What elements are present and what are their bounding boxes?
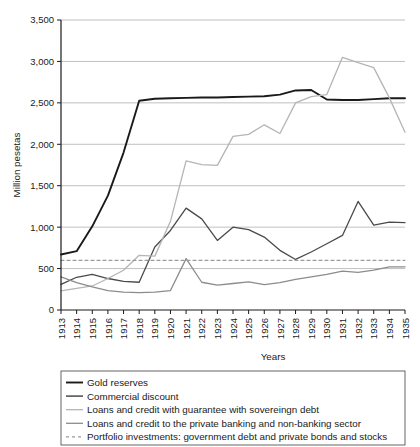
x-tick-label: 1923 (212, 318, 223, 339)
x-tick-label: 1926 (259, 318, 270, 339)
x-tick-label: 1917 (118, 318, 129, 339)
chart-background (0, 0, 420, 447)
x-tick-label: 1933 (368, 318, 379, 339)
y-tick-label: 500 (38, 263, 54, 274)
x-axis-label: Years (261, 351, 286, 362)
x-tick-label: 1931 (337, 318, 348, 339)
x-tick-label: 1932 (353, 318, 364, 339)
x-tick-label: 1915 (87, 318, 98, 339)
y-tick-label: 1,500 (30, 180, 54, 191)
x-tick-label: 1918 (134, 318, 145, 339)
legend-label: Gold reserves (87, 377, 148, 388)
y-tick-label: 2,000 (30, 139, 54, 150)
y-tick-label: 1,000 (30, 222, 54, 233)
x-tick-label: 1924 (228, 318, 239, 339)
line-chart: 05001,0001,5002,0002,5003,0003,500 19131… (0, 0, 420, 447)
y-tick-label: 2,500 (30, 97, 54, 108)
x-tick-label: 1935 (400, 318, 411, 339)
x-tick-label: 1913 (56, 318, 67, 339)
legend-label: Loans and credit with guarantee with sov… (87, 404, 319, 415)
y-tick-label: 3,000 (30, 56, 54, 67)
x-tick-label: 1916 (103, 318, 114, 339)
x-tick-label: 1930 (321, 318, 332, 339)
x-tick-label: 1929 (306, 318, 317, 339)
x-tick-label: 1934 (384, 318, 395, 339)
x-tick-label: 1921 (181, 318, 192, 339)
x-tick-label: 1927 (275, 318, 286, 339)
x-tick-label: 1922 (196, 318, 207, 339)
legend-label: Loans and credit to the private banking … (87, 418, 362, 429)
y-tick-label: 3,500 (30, 14, 54, 25)
chart-figure: 05001,0001,5002,0002,5003,0003,500 19131… (0, 0, 420, 447)
y-tick-label: 0 (49, 304, 54, 315)
x-tick-label: 1919 (149, 318, 160, 339)
legend-label: Portfolio investments: government debt a… (87, 431, 387, 442)
y-axis-label: Million pesetas (11, 133, 22, 198)
x-axis-tick-labels: 1913191419151916191719181919192019211922… (56, 318, 411, 339)
x-tick-label: 1925 (243, 318, 254, 339)
x-tick-label: 1920 (165, 318, 176, 339)
x-tick-label: 1928 (290, 318, 301, 339)
x-tick-label: 1914 (71, 318, 82, 339)
legend-label: Commercial discount (87, 391, 179, 402)
